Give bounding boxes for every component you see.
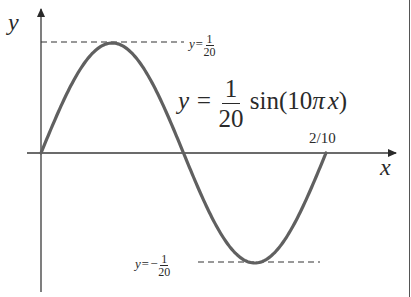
lower-ref-prefix: y=−	[135, 256, 158, 271]
function-equation: y = 120 sin(10πx)	[178, 76, 347, 131]
equation-denominator: 20	[218, 104, 243, 131]
y-axis-label: y	[8, 10, 19, 34]
x-tick-label: 2/10	[309, 131, 336, 146]
lower-reference-label: y=−120	[135, 253, 170, 278]
lower-ref-denominator: 20	[158, 266, 170, 278]
equation-pi: π	[312, 87, 325, 114]
equation-numerator: 1	[222, 76, 241, 104]
equation-func: sin(10	[250, 87, 313, 114]
equation-x: x	[328, 87, 339, 114]
equation-lhs: y =	[178, 87, 212, 114]
upper-ref-denominator: 20	[204, 46, 216, 58]
equation-close: )	[339, 87, 347, 114]
upper-ref-prefix: y=	[189, 36, 204, 51]
chart-figure: y x y=120 y=−120 y = 120 sin(10πx) 2/10	[0, 0, 411, 297]
x-axis-label: x	[380, 155, 391, 179]
upper-reference-label: y=120	[189, 33, 216, 58]
